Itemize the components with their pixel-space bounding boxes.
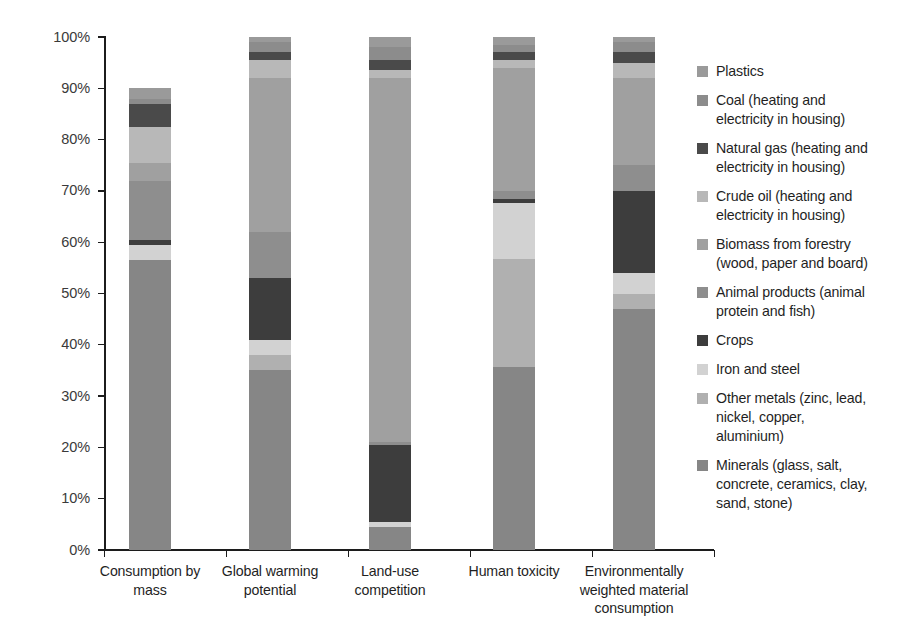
x-axis-tick xyxy=(226,550,227,557)
bar-segment[interactable] xyxy=(129,104,171,127)
bar-segment[interactable] xyxy=(613,52,655,62)
bar-segment[interactable] xyxy=(613,63,655,78)
bar-segment[interactable] xyxy=(493,191,535,199)
bar-segment[interactable] xyxy=(249,37,291,42)
legend-item[interactable]: Other metals (zinc, lead, nickel, copper… xyxy=(697,389,919,446)
legend-label: Crops xyxy=(716,331,753,350)
x-axis-category-label: Land-use competition xyxy=(326,562,454,599)
bar-segment[interactable] xyxy=(493,68,535,191)
x-axis-category-label: Global warming potential xyxy=(206,562,334,599)
bar-segment[interactable] xyxy=(369,47,411,60)
y-axis-tick-label: 0% xyxy=(38,543,90,558)
legend-swatch-icon xyxy=(697,393,708,404)
legend-label: Coal (heating and electricity in housing… xyxy=(716,91,845,129)
bar-segment[interactable] xyxy=(613,273,655,294)
bar-column[interactable] xyxy=(249,37,291,550)
bar-segment[interactable] xyxy=(613,42,655,52)
legend-label: Natural gas (heating and electricity in … xyxy=(716,139,868,177)
bar-segment[interactable] xyxy=(493,199,535,203)
legend-swatch-icon xyxy=(697,66,708,77)
legend-label: Minerals (glass, salt, concrete, ceramic… xyxy=(716,456,867,513)
bar-segment[interactable] xyxy=(613,37,655,42)
bar-segment[interactable] xyxy=(249,78,291,232)
bar-column[interactable] xyxy=(613,37,655,550)
bar-segment[interactable] xyxy=(249,42,291,52)
legend-label: Plastics xyxy=(716,62,764,81)
legend-item[interactable]: Natural gas (heating and electricity in … xyxy=(697,139,919,177)
y-axis-tick-label: 90% xyxy=(38,81,90,96)
bar-column[interactable] xyxy=(369,37,411,550)
bar-segment[interactable] xyxy=(129,127,171,163)
bar-segment[interactable] xyxy=(129,260,171,550)
bar-segment[interactable] xyxy=(493,52,535,60)
bar-segment[interactable] xyxy=(129,163,171,181)
y-axis-tick-label: 100% xyxy=(38,30,90,45)
bar-segment[interactable] xyxy=(613,191,655,273)
bar-segment[interactable] xyxy=(369,442,411,445)
plot-area xyxy=(104,37,712,550)
bar-segment[interactable] xyxy=(613,294,655,309)
bar-segment[interactable] xyxy=(613,78,655,165)
bar-segment[interactable] xyxy=(249,60,291,78)
legend-item[interactable]: Coal (heating and electricity in housing… xyxy=(697,91,919,129)
bar-segment[interactable] xyxy=(369,37,411,47)
y-axis-tick-label: 80% xyxy=(38,132,90,147)
legend-swatch-icon xyxy=(697,95,708,106)
bar-segment[interactable] xyxy=(249,355,291,370)
bar-segment[interactable] xyxy=(249,278,291,340)
bar-segment[interactable] xyxy=(493,367,535,550)
y-axis-tick-label: 10% xyxy=(38,491,90,506)
bar-segment[interactable] xyxy=(249,52,291,60)
legend-item[interactable]: Iron and steel xyxy=(697,360,919,379)
legend-label: Other metals (zinc, lead, nickel, copper… xyxy=(716,389,866,446)
bar-segment[interactable] xyxy=(493,37,535,45)
legend-swatch-icon xyxy=(697,364,708,375)
bar-segment[interactable] xyxy=(493,60,535,68)
legend-swatch-icon xyxy=(697,191,708,202)
legend-item[interactable]: Crude oil (heating and electricity in ho… xyxy=(697,187,919,225)
bar-segment[interactable] xyxy=(129,88,171,98)
x-axis-category-label: Environmentally weighted material consum… xyxy=(570,562,698,618)
bar-segment[interactable] xyxy=(493,203,535,259)
legend-swatch-icon xyxy=(697,287,708,298)
bar-segment[interactable] xyxy=(129,240,171,245)
bar-segment[interactable] xyxy=(249,232,291,278)
bar-segment[interactable] xyxy=(369,445,411,522)
bar-segment[interactable] xyxy=(369,522,411,527)
bar-segment[interactable] xyxy=(249,370,291,550)
legend-label: Iron and steel xyxy=(716,360,800,379)
bar-segment[interactable] xyxy=(493,259,535,367)
legend-item[interactable]: Animal products (animal protein and fish… xyxy=(697,283,919,321)
stacked-bar-chart: 0%10%20%30%40%50%60%70%80%90%100% Consum… xyxy=(0,0,924,642)
x-axis-tick xyxy=(348,550,349,557)
legend-item[interactable]: Plastics xyxy=(697,62,919,81)
x-axis-category-label: Consumption by mass xyxy=(86,562,214,599)
bar-segment[interactable] xyxy=(369,78,411,442)
bar-column[interactable] xyxy=(493,37,535,550)
y-axis-tick-label: 50% xyxy=(38,286,90,301)
legend-swatch-icon xyxy=(697,143,708,154)
legend-swatch-icon xyxy=(697,335,708,346)
bar-segment[interactable] xyxy=(129,181,171,240)
bar-segment[interactable] xyxy=(369,70,411,78)
legend-label: Crude oil (heating and electricity in ho… xyxy=(716,187,852,225)
legend-item[interactable]: Biomass from forestry (wood, paper and b… xyxy=(697,235,919,273)
bar-segment[interactable] xyxy=(249,340,291,355)
x-axis-tick xyxy=(714,550,715,557)
y-axis-tick-label: 40% xyxy=(38,337,90,352)
bar-segment[interactable] xyxy=(613,165,655,191)
y-axis-tick-label: 60% xyxy=(38,235,90,250)
legend-swatch-icon xyxy=(697,239,708,250)
bar-segment[interactable] xyxy=(493,45,535,53)
legend-item[interactable]: Minerals (glass, salt, concrete, ceramic… xyxy=(697,456,919,513)
bar-segment[interactable] xyxy=(129,245,171,260)
y-axis-tick-label: 70% xyxy=(38,183,90,198)
chart-legend: PlasticsCoal (heating and electricity in… xyxy=(697,62,919,523)
bar-segment[interactable] xyxy=(369,527,411,550)
x-axis-category-label: Human toxicity xyxy=(450,562,578,581)
bar-column[interactable] xyxy=(129,37,171,550)
bar-segment[interactable] xyxy=(129,99,171,104)
bar-segment[interactable] xyxy=(369,60,411,70)
bar-segment[interactable] xyxy=(613,309,655,550)
legend-item[interactable]: Crops xyxy=(697,331,919,350)
